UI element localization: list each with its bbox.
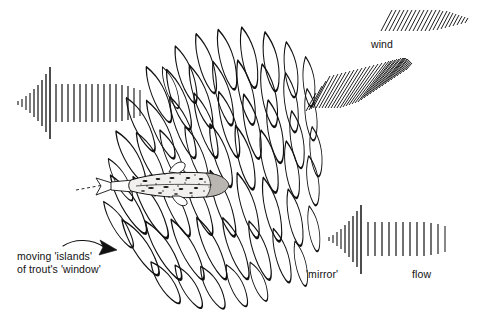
label-moving-islands: moving 'islands'of trout's 'window' (17, 250, 101, 277)
trout-window-figure: moving 'islands'of trout's 'window' 'mir… (0, 0, 478, 312)
wind-arrow-lower-wedge (306, 58, 412, 111)
label-islands-line2: of trout's 'window' (17, 263, 101, 275)
tail-fin (96, 178, 112, 195)
label-mirror: 'mirror' (306, 268, 338, 281)
trout (76, 162, 229, 206)
label-wind: wind (371, 38, 393, 51)
wave-island-field (100, 26, 324, 312)
dorsal-fin (169, 162, 185, 173)
flow-arrow-left (18, 67, 140, 139)
wind-arrow-upper-band (381, 10, 468, 31)
label-flow: flow (412, 268, 431, 281)
flow-arrow-right (329, 205, 445, 274)
label-islands-line1: moving 'islands' (17, 250, 92, 262)
leader-arrowhead (99, 240, 117, 255)
